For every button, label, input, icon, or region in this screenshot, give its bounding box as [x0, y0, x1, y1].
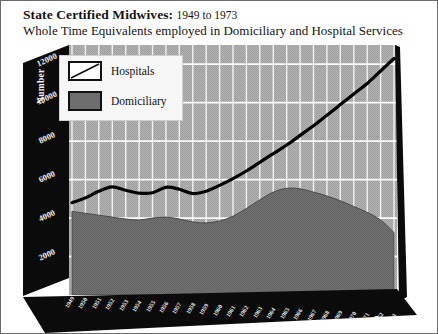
page-title: State Certified Midwives: 1949 to 1973	[23, 7, 429, 23]
x-tick-label: 1958	[185, 302, 196, 315]
x-tick-label: 1950	[77, 296, 88, 309]
chart-title-block: State Certified Midwives: 1949 to 1973 W…	[23, 7, 429, 39]
x-tick-label: 1952	[104, 298, 115, 311]
x-tick-label: 1964	[265, 306, 276, 319]
x-axis-floor: 1949195019511952195319541955195619571958…	[23, 289, 417, 334]
x-axis-title: Year	[374, 313, 399, 328]
x-tick-label: 1953	[118, 298, 129, 311]
x-tick-label: 1955	[144, 300, 155, 313]
x-tick-label: 1967	[305, 308, 316, 321]
legend-swatch-domiciliary-icon	[68, 91, 102, 111]
legend-item-hospitals[interactable]: Hospitals	[68, 56, 182, 86]
title-year-range: 1949 to 1973	[177, 9, 238, 21]
title-main: State Certified Midwives:	[23, 7, 173, 22]
chart-area: Number 12000 10000 8000 6000 4000 2000	[23, 45, 417, 317]
legend-item-domiciliary[interactable]: Domiciliary	[68, 86, 182, 116]
x-tick-label: 1965	[279, 307, 290, 320]
x-tick-label: 1963	[252, 306, 263, 319]
y-tick-label: 8000	[37, 130, 57, 146]
legend: Hospitals Domiciliary	[59, 55, 183, 121]
y-tick-label: 4000	[37, 208, 57, 224]
x-tick-label: 1961	[225, 304, 236, 317]
x-tick-label: 1971	[359, 311, 370, 324]
x-tick-label: 1959	[198, 303, 209, 316]
legend-swatch-hospitals-icon	[68, 61, 102, 81]
x-tick-label: 1960	[212, 303, 223, 316]
x-tick-label: 1951	[91, 297, 102, 310]
chart-page: State Certified Midwives: 1949 to 1973 W…	[0, 0, 438, 334]
x-tick-label: 1949	[64, 296, 75, 309]
chart-subtitle: Whole Time Equivalents employed in Domic…	[23, 23, 429, 39]
x-tick-label: 1966	[292, 308, 303, 321]
x-tick-label: 1956	[158, 301, 169, 314]
x-tick-label: 1969	[332, 310, 343, 323]
x-tick-label: 1962	[238, 305, 249, 318]
y-tick-label: 12000	[35, 51, 58, 69]
x-tick-label: 1968	[319, 309, 330, 322]
x-tick-label: 1954	[131, 299, 142, 312]
legend-label-hospitals: Hospitals	[111, 65, 154, 77]
x-tick-label: 1957	[171, 301, 182, 314]
y-tick-label: 6000	[37, 169, 57, 185]
y-tick-label: 2000	[37, 247, 57, 263]
x-tick-label: 1970	[346, 311, 357, 324]
legend-label-domiciliary: Domiciliary	[111, 95, 167, 107]
